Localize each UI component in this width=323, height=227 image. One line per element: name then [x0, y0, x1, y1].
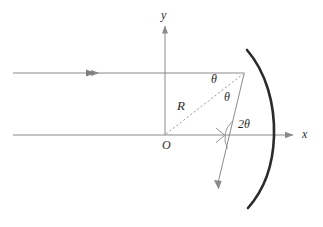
- incident-ray-arrowhead-icon: [86, 70, 95, 77]
- y-axis-label: y: [161, 9, 166, 21]
- angle-incidence-label: θ: [211, 73, 217, 85]
- diagram-canvas: [0, 0, 323, 227]
- angle-reflection-label: θ: [224, 91, 230, 103]
- angle-caret-lower: [216, 136, 225, 143]
- mirror-arc: [247, 50, 274, 208]
- ray-diagram: y x O R θ θ 2θ: [0, 0, 323, 227]
- radius-label: R: [177, 99, 185, 112]
- angle-caret-upper: [216, 128, 225, 135]
- x-axis-label: x: [302, 128, 307, 140]
- angle-double-label: 2θ: [238, 118, 250, 130]
- reflected-ray-arrowhead-icon: [214, 180, 222, 190]
- origin-label: O: [162, 139, 171, 151]
